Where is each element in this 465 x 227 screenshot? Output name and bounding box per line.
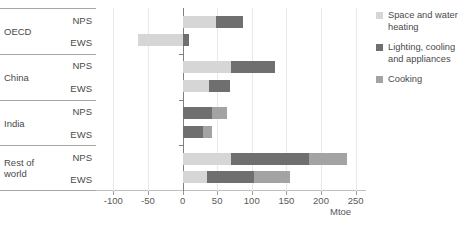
legend-label: Cooking [388,74,422,86]
category-label: China [4,72,50,83]
bar-segment [212,107,227,119]
bar-segment [183,126,204,138]
bar-segment [231,61,275,73]
bar-segment [254,171,290,183]
scenario-label-ews: EWS [70,31,92,53]
legend-label: Space and water heating [388,10,464,33]
bar-segment [231,153,309,165]
scenario-label-nps: NPS [72,55,92,77]
x-axis: -100-50050100150200250 [96,191,366,211]
plot-area [96,8,366,191]
bar-segment [183,61,231,73]
bar-india-nps [183,107,227,119]
category-label: OECD [4,26,50,37]
bar-china-ews [183,80,230,92]
legend-item[interactable]: Space and water heating [376,10,464,33]
category-tick [179,100,183,101]
x-tick-label: 100 [244,195,260,206]
bar-segment [207,171,254,183]
scenario-label-ews: EWS [70,168,92,190]
scenario-label-ews: EWS [70,77,92,99]
bar-segment [183,34,190,46]
scenario-label-nps: NPS [72,9,92,31]
legend-label: Lighting, cooling and appliances [388,42,464,65]
bar-rest-of-world-nps [183,153,348,165]
bar-segment [183,107,212,119]
x-tick-label: -50 [141,195,155,206]
bar-segment [216,16,244,28]
x-tick-label: 150 [278,195,294,206]
bar-rest-of-world-ews [183,171,290,183]
scenario-labels: NPSEWS [48,101,92,146]
gridline--100 [113,8,114,191]
category-label: India [4,117,50,128]
bar-segment [203,126,211,138]
bar-segment [183,80,209,92]
scenario-labels: NPSEWS [48,9,92,54]
scenario-label-nps: NPS [72,101,92,123]
x-tick-label: 50 [212,195,223,206]
category-group: Rest of worldNPSEWS [0,145,96,191]
category-axis: OECDNPSEWSChinaNPSEWSIndiaNPSEWSRest of … [0,8,96,191]
x-tick-label: -100 [104,195,123,206]
x-tick-label: 0 [180,195,185,206]
scenario-label-ews: EWS [70,123,92,145]
legend-swatch-icon [376,44,383,51]
category-group: IndiaNPSEWS [0,100,96,146]
category-group: ChinaNPSEWS [0,54,96,100]
x-tick-label: 200 [313,195,329,206]
legend-swatch-icon [376,12,383,19]
gridline-250 [356,8,357,191]
bar-segment [183,153,231,165]
category-label: Rest of world [4,157,50,179]
category-tick [179,54,183,55]
scenario-label-nps: NPS [72,146,92,168]
scenario-labels: NPSEWS [48,55,92,100]
bar-oecd-ews [138,34,190,46]
legend-swatch-icon [376,76,383,83]
bar-segment [309,153,348,165]
bar-oecd-nps [183,16,244,28]
bar-segment [183,16,216,28]
category-tick [179,145,183,146]
category-group: OECDNPSEWS [0,8,96,54]
bar-segment [209,80,230,92]
scenario-labels: NPSEWS [48,146,92,190]
bar-china-nps [183,61,276,73]
bar-segment [138,34,183,46]
bar-segment [183,171,207,183]
bar-india-ews [183,126,212,138]
x-tick-label: 250 [348,195,364,206]
legend-item[interactable]: Cooking [376,74,464,86]
x-axis-title: Mtoe [330,206,351,217]
chart-legend: Space and water heatingLighting, cooling… [376,10,464,95]
legend-item[interactable]: Lighting, cooling and appliances [376,42,464,65]
stacked-bar-chart: OECDNPSEWSChinaNPSEWSIndiaNPSEWSRest of … [0,0,465,227]
